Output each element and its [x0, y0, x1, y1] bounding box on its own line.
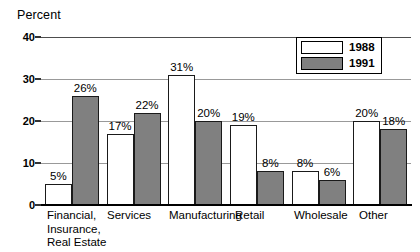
bar: [45, 184, 72, 205]
legend-label-1988: 1988: [349, 41, 375, 54]
bar-group: 19%8%: [230, 37, 284, 205]
bar-value-label: 31%: [162, 61, 201, 73]
bar: [257, 171, 284, 205]
bar-value-label: 26%: [66, 82, 105, 94]
bar-group: 31%20%: [168, 37, 222, 205]
bar-value-label: 18%: [374, 115, 413, 127]
bar-group: 5%26%: [45, 37, 99, 205]
y-tick-mark-30: [35, 78, 41, 79]
y-tick-mark-0: [35, 204, 41, 205]
y-tick-label-0: 0: [13, 200, 35, 211]
bar: [168, 75, 195, 205]
bar: [319, 180, 346, 205]
x-axis-label: Other: [359, 209, 388, 223]
legend-entry-1988: 1988: [301, 41, 379, 54]
y-tick-label-40: 40: [13, 32, 35, 43]
bar: [353, 121, 380, 205]
bar-value-label: 22%: [128, 99, 167, 111]
x-axis-line: [35, 204, 412, 206]
y-axis: 010203040: [11, 37, 35, 205]
bar-value-label: 19%: [224, 111, 263, 123]
y-tick-mark-20: [35, 120, 41, 121]
y-tick-label-10: 10: [13, 158, 35, 169]
bar-value-label: 8%: [251, 157, 290, 169]
y-tick-mark-10: [35, 162, 41, 163]
bar-chart: Percent 010203040 5%26%17%22%31%20%19%8%…: [0, 0, 420, 252]
bar: [195, 121, 222, 205]
x-axis-label: Retail: [235, 209, 264, 223]
legend-swatch-1991: [301, 57, 343, 70]
x-axis-label: Wholesale: [294, 209, 348, 223]
x-axis-label: Manufacturing: [169, 209, 242, 223]
x-axis-label: Financial, Insurance, Real Estate: [47, 209, 106, 250]
bar: [380, 129, 407, 205]
bar-value-label: 6%: [313, 166, 352, 178]
bar: [72, 96, 99, 205]
y-tick-label-30: 30: [13, 74, 35, 85]
y-axis-title: Percent: [17, 8, 61, 22]
bar-group: 17%22%: [107, 37, 161, 205]
legend-entry-1991: 1991: [301, 57, 379, 70]
legend-swatch-1988: [301, 41, 343, 54]
legend-label-1991: 1991: [349, 57, 375, 70]
y-tick-mark-40: [35, 36, 41, 37]
bar: [134, 113, 161, 205]
y-tick-label-20: 20: [13, 116, 35, 127]
x-axis-label: Services: [107, 209, 151, 223]
chart-legend: 1988 1991: [296, 37, 382, 74]
bar: [107, 134, 134, 205]
bar-value-label: 20%: [189, 107, 228, 119]
